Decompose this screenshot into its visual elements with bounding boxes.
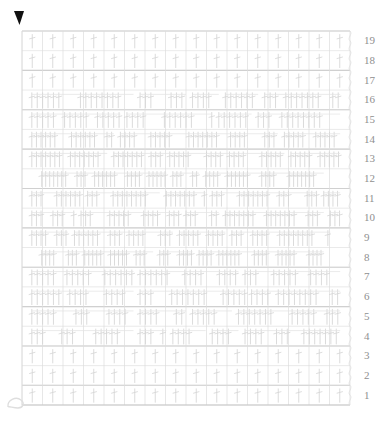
crochet-chart-page: 19181716151413121110987654321 <box>0 0 389 423</box>
row-number-5: 5 <box>364 311 370 322</box>
row-number-6: 6 <box>364 291 370 302</box>
row-number-3: 3 <box>364 350 370 361</box>
row-number-15: 15 <box>364 114 375 125</box>
row-number-14: 14 <box>364 134 375 145</box>
row-number-10: 10 <box>364 212 375 223</box>
row-number-7: 7 <box>364 271 370 282</box>
row-number-axis: 19181716151413121110987654321 <box>0 0 389 423</box>
row-number-2: 2 <box>364 370 370 381</box>
row-number-18: 18 <box>364 55 375 66</box>
row-number-12: 12 <box>364 173 375 184</box>
row-number-8: 8 <box>364 252 370 263</box>
row-number-9: 9 <box>364 232 370 243</box>
row-number-16: 16 <box>364 94 375 105</box>
row-number-17: 17 <box>364 75 375 86</box>
row-number-4: 4 <box>364 331 370 342</box>
row-number-13: 13 <box>364 153 375 164</box>
row-number-19: 19 <box>364 35 375 46</box>
row-number-11: 11 <box>364 193 375 204</box>
row-number-1: 1 <box>364 390 370 401</box>
